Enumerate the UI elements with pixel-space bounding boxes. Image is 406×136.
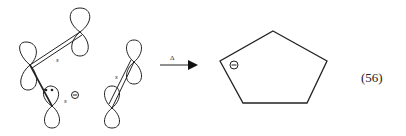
heat-label: Δ: [170, 54, 175, 62]
sigma-label-middle: s: [115, 73, 118, 81]
cyclopentadienyl-ring: [220, 31, 327, 103]
sigma-label-left: s: [64, 97, 67, 105]
reaction-scheme: s s s Δ: [0, 0, 406, 136]
orbital-left: [20, 42, 37, 90]
orbital-bottom: [43, 86, 59, 128]
equation-number: (56): [361, 70, 383, 86]
sigma-label-top: s: [56, 56, 59, 64]
